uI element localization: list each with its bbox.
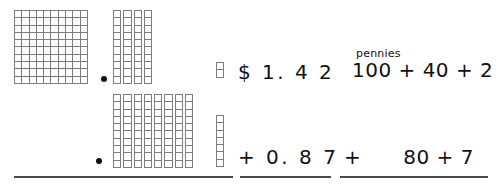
unit-cube	[124, 18, 131, 25]
money-value-top: $ 1. 4 2	[238, 62, 334, 82]
unit-cube	[22, 33, 29, 40]
unit-cube	[66, 18, 73, 25]
unit-cube	[145, 33, 152, 40]
unit-cube	[186, 161, 193, 168]
unit-cube	[114, 62, 121, 69]
unit-cube	[165, 117, 172, 124]
unit-cube	[155, 139, 162, 146]
unit-cube	[124, 139, 131, 146]
unit-cube	[51, 62, 58, 69]
unit-cube	[66, 26, 73, 33]
unit-cube	[59, 26, 66, 33]
unit-cube	[15, 47, 22, 54]
unit-cube	[114, 139, 121, 146]
unit-cube	[30, 18, 37, 25]
unit-cube	[81, 40, 88, 47]
unit-cube	[15, 40, 22, 47]
unit-cube	[73, 62, 80, 69]
unit-cube	[124, 62, 131, 69]
unit-cube	[114, 55, 121, 62]
unit-cube	[155, 95, 162, 102]
unit-cube	[22, 26, 29, 33]
unit-cube	[114, 153, 121, 160]
unit-cube	[176, 146, 183, 153]
unit-cube	[51, 47, 58, 54]
unit-cube	[51, 40, 58, 47]
unit-cube	[145, 139, 152, 146]
unit-cube	[217, 160, 224, 167]
unit-cube	[135, 18, 142, 25]
unit-cube	[124, 11, 131, 18]
unit-cube	[81, 18, 88, 25]
unit-cube	[186, 102, 193, 109]
unit-cube	[217, 63, 224, 70]
unit-cube	[217, 123, 224, 130]
tens-rod	[164, 94, 172, 168]
unit-cube	[176, 117, 183, 124]
unit-cube	[15, 18, 22, 25]
expanded-form-bottom-terms: 80 + 7	[403, 145, 474, 169]
expanded-form-bottom: +80 + 7	[344, 147, 474, 167]
unit-cube	[176, 102, 183, 109]
unit-cube	[114, 33, 121, 40]
unit-cube	[145, 69, 152, 76]
unit-cube	[155, 161, 162, 168]
unit-cube	[186, 146, 193, 153]
tens-rod	[134, 94, 142, 168]
unit-cube	[186, 110, 193, 117]
unit-cube	[135, 131, 142, 138]
unit-cube	[37, 40, 44, 47]
unit-cube	[59, 18, 66, 25]
tens-rods-bottom	[113, 94, 193, 168]
unit-cube	[145, 77, 152, 84]
unit-cube	[145, 18, 152, 25]
tens-rod	[185, 94, 193, 168]
sum-rule-blocks	[14, 176, 233, 178]
unit-cube	[37, 69, 44, 76]
unit-cube	[44, 40, 51, 47]
unit-cube	[145, 161, 152, 168]
unit-cube	[165, 110, 172, 117]
hundreds-flat-top	[14, 10, 88, 84]
unit-cube	[44, 62, 51, 69]
unit-cube	[30, 69, 37, 76]
unit-cube	[114, 18, 121, 25]
unit-cube	[81, 47, 88, 54]
unit-cube	[176, 131, 183, 138]
unit-cube	[59, 62, 66, 69]
tens-rod	[175, 94, 183, 168]
unit-cube	[114, 47, 121, 54]
unit-cube	[44, 11, 51, 18]
unit-cube	[135, 110, 142, 117]
unit-cube	[124, 131, 131, 138]
unit-cube	[15, 11, 22, 18]
unit-cube	[165, 102, 172, 109]
unit-cube	[22, 11, 29, 18]
unit-cube	[37, 18, 44, 25]
unit-cube	[155, 110, 162, 117]
unit-cube	[30, 55, 37, 62]
unit-cube	[30, 62, 37, 69]
unit-cube	[124, 26, 131, 33]
unit-cube	[81, 26, 88, 33]
unit-cube	[51, 77, 58, 84]
unit-cube	[124, 161, 131, 168]
unit-cube	[135, 95, 142, 102]
unit-cube	[135, 77, 142, 84]
unit-cube	[30, 40, 37, 47]
unit-cube	[22, 77, 29, 84]
unit-cube	[81, 77, 88, 84]
unit-cube	[66, 11, 73, 18]
unit-cube	[176, 110, 183, 117]
unit-cube	[165, 131, 172, 138]
unit-cube	[114, 40, 121, 47]
unit-cube	[145, 117, 152, 124]
unit-cube	[135, 161, 142, 168]
unit-cube	[176, 139, 183, 146]
unit-cube	[73, 69, 80, 76]
unit-cube	[114, 124, 121, 131]
unit-cube	[51, 26, 58, 33]
unit-cube	[114, 11, 121, 18]
unit-cube	[217, 145, 224, 152]
unit-cube	[22, 47, 29, 54]
